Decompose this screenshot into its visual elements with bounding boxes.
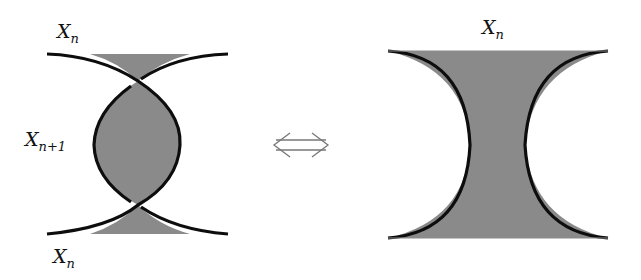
right-figure: Xn <box>388 16 608 238</box>
right-shaded-region <box>388 51 608 238</box>
label-bottom-xn: Xn <box>51 245 75 271</box>
double-arrow-icon <box>274 133 328 157</box>
left-middle-shaded-region <box>94 81 180 205</box>
label-right-top-xn: Xn <box>480 16 504 42</box>
diagram-canvas: Xn Xn+1 Xn Xn <box>0 0 641 280</box>
label-top-xn: Xn <box>55 20 79 46</box>
left-bottom-shaded-region <box>90 205 190 234</box>
label-middle-xn1: Xn+1 <box>23 128 66 154</box>
left-top-shaded-region <box>90 54 190 81</box>
left-figure: Xn Xn+1 Xn <box>23 20 228 271</box>
